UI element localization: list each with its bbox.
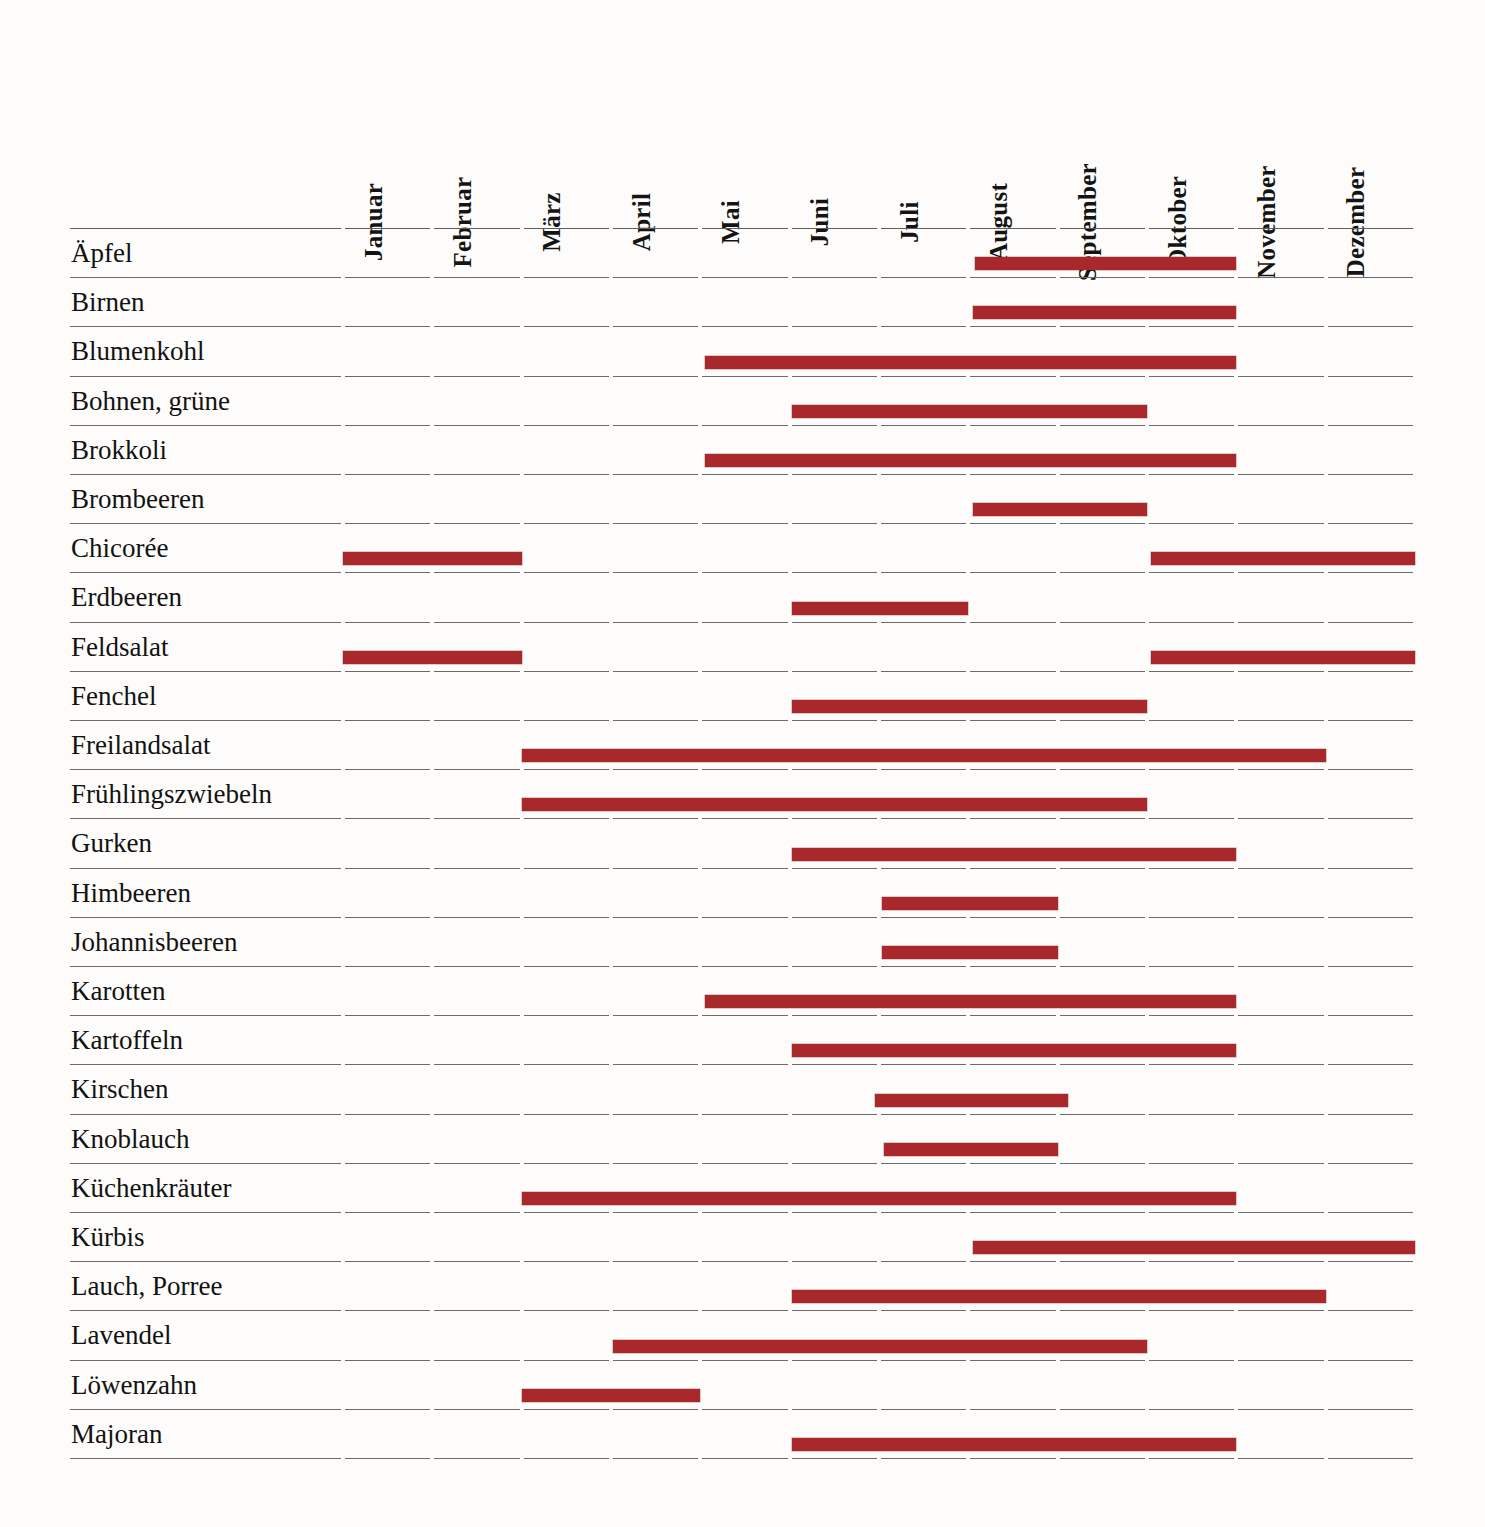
column-tick	[698, 1457, 702, 1460]
column-tick	[877, 817, 881, 820]
column-tick	[1145, 670, 1149, 673]
column-tick	[1056, 1457, 1060, 1460]
column-tick	[698, 522, 702, 525]
column-tick	[1413, 670, 1417, 673]
column-tick	[1413, 424, 1417, 427]
column-tick	[430, 1113, 434, 1116]
season-bar	[522, 749, 1326, 762]
column-tick	[1234, 1113, 1238, 1116]
column-tick	[520, 965, 524, 968]
column-tick	[788, 621, 792, 624]
column-tick	[430, 227, 434, 230]
season-bar	[522, 798, 1147, 811]
column-tick	[877, 375, 881, 378]
column-tick	[609, 965, 613, 968]
season-bar	[792, 602, 968, 615]
column-tick	[1056, 1014, 1060, 1017]
column-tick	[430, 719, 434, 722]
column-tick	[788, 965, 792, 968]
column-tick	[520, 1408, 524, 1411]
column-tick	[1056, 522, 1060, 525]
column-tick	[966, 424, 970, 427]
column-tick	[1413, 325, 1417, 328]
column-tick	[1324, 522, 1328, 525]
column-tick	[341, 1457, 345, 1460]
column-tick	[877, 227, 881, 230]
column-tick	[788, 1359, 792, 1362]
column-tick	[877, 621, 881, 624]
row-separator	[70, 671, 1415, 672]
row-separator	[70, 1015, 1415, 1016]
column-tick	[877, 1260, 881, 1263]
column-tick	[877, 670, 881, 673]
column-tick	[1413, 276, 1417, 279]
row-separator	[70, 966, 1415, 967]
column-tick	[698, 817, 702, 820]
column-tick	[1234, 1408, 1238, 1411]
row-separator	[70, 1360, 1415, 1361]
column-tick	[1413, 1309, 1417, 1312]
column-tick	[966, 1014, 970, 1017]
column-tick	[1413, 1113, 1417, 1116]
column-tick	[520, 867, 524, 870]
column-tick	[1234, 1309, 1238, 1312]
column-tick	[966, 1408, 970, 1411]
column-tick	[341, 571, 345, 574]
column-tick	[1413, 375, 1417, 378]
column-tick	[788, 1063, 792, 1066]
column-tick	[1413, 522, 1417, 525]
column-tick	[430, 965, 434, 968]
column-tick	[877, 867, 881, 870]
row-separator	[70, 425, 1415, 426]
row-label-0: Äpfel	[71, 240, 132, 267]
season-bar	[973, 306, 1237, 319]
column-tick	[966, 276, 970, 279]
row-separator	[70, 917, 1415, 918]
column-tick	[966, 1211, 970, 1214]
column-tick	[698, 1014, 702, 1017]
column-tick	[1145, 375, 1149, 378]
column-tick	[341, 473, 345, 476]
column-tick	[609, 473, 613, 476]
column-tick	[609, 1014, 613, 1017]
column-tick	[1056, 768, 1060, 771]
column-tick	[520, 670, 524, 673]
column-tick	[966, 965, 970, 968]
row-label-2: Blumenkohl	[71, 338, 205, 365]
seasonal-calendar-chart: JanuarFebruarMärzAprilMaiJuniJuliAugustS…	[0, 0, 1485, 1527]
column-tick	[966, 817, 970, 820]
season-bar	[343, 552, 522, 565]
column-tick	[430, 768, 434, 771]
column-tick	[698, 325, 702, 328]
column-tick	[609, 1260, 613, 1263]
column-tick	[1234, 670, 1238, 673]
season-bar	[792, 405, 1147, 418]
season-bar	[522, 1389, 701, 1402]
row-label-21: Lauch, Porree	[71, 1273, 222, 1300]
column-tick	[609, 1063, 613, 1066]
column-tick	[609, 1408, 613, 1411]
row-label-13: Himbeeren	[71, 880, 191, 907]
column-tick	[1234, 621, 1238, 624]
column-tick	[1145, 227, 1149, 230]
column-tick	[430, 571, 434, 574]
column-tick	[1324, 817, 1328, 820]
column-tick	[341, 325, 345, 328]
column-tick	[609, 1113, 613, 1116]
column-tick	[1324, 227, 1328, 230]
column-tick	[341, 424, 345, 427]
column-tick	[1413, 965, 1417, 968]
column-tick	[877, 1211, 881, 1214]
column-tick	[520, 1162, 524, 1165]
column-tick	[1324, 1309, 1328, 1312]
column-tick	[966, 227, 970, 230]
column-tick	[1413, 916, 1417, 919]
column-tick	[1324, 1063, 1328, 1066]
column-tick	[788, 719, 792, 722]
column-tick	[788, 1457, 792, 1460]
column-tick	[1056, 473, 1060, 476]
column-tick	[1145, 916, 1149, 919]
row-label-20: Kürbis	[71, 1224, 145, 1251]
season-bar	[973, 503, 1147, 516]
column-tick	[520, 1014, 524, 1017]
